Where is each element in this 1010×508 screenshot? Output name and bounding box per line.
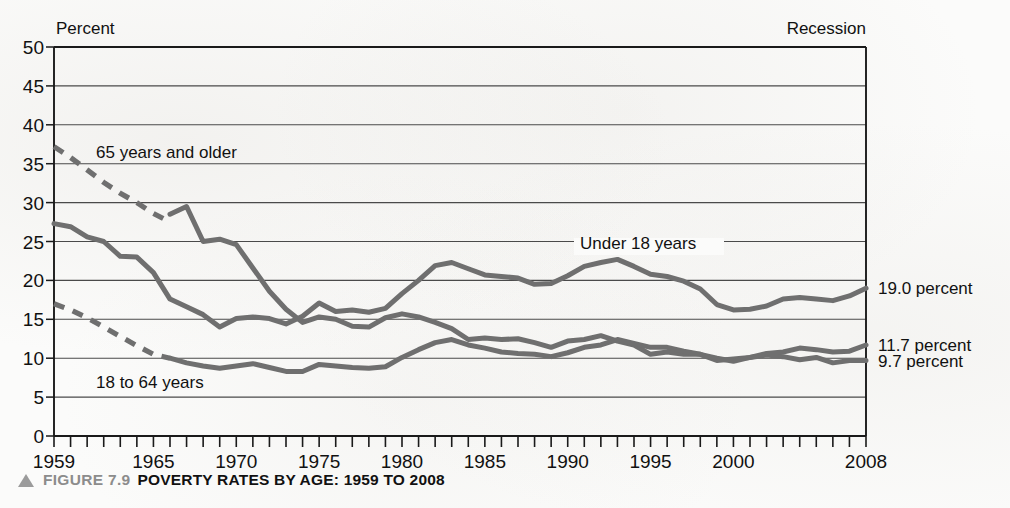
x-tick-label-2000: 2000	[712, 451, 754, 470]
series-1-line	[54, 224, 866, 327]
y-tick-label-40: 40	[23, 115, 44, 136]
figure-title-label: POVERTY RATES BY AGE: 1959 TO 2008	[137, 471, 444, 489]
series-label-18-to-64-years: 18 to 64 years	[96, 373, 204, 392]
figure-caption: FIGURE 7.9 POVERTY RATES BY AGE: 1959 TO…	[18, 471, 445, 489]
y-tick-label-50: 50	[23, 37, 44, 58]
end-value-label-1: 19.0 percent	[878, 279, 973, 298]
series-2-estimated-dashed-segment	[54, 304, 170, 358]
x-tick-label-1970: 1970	[215, 451, 257, 470]
y-tick-label-20: 20	[23, 270, 44, 291]
x-axis-ticks	[54, 436, 866, 447]
end-value-label-2: 11.7 percent	[878, 336, 972, 355]
y-tick-label-45: 45	[23, 76, 44, 97]
series-label-65-years-and-older: 65 years and older	[96, 143, 237, 162]
x-tick-label-2008: 2008	[845, 451, 887, 470]
recession-note-label: Recession	[787, 19, 866, 38]
x-tick-label-1990: 1990	[547, 451, 589, 470]
x-tick-label-1959: 1959	[33, 451, 75, 470]
figure-page: 05101520253035404550 1959196519701975198…	[0, 0, 1010, 508]
x-tick-label-1975: 1975	[298, 451, 340, 470]
series-inline-labels: 65 years and older18 to 64 yearsUnder 18…	[96, 143, 696, 392]
y-tick-label-30: 30	[23, 193, 44, 214]
x-axis-tick-labels: 1959196519701975198019851990199520002008	[33, 451, 887, 470]
figure-number-label: FIGURE 7.9	[43, 471, 130, 489]
series-0-line	[170, 206, 866, 362]
poverty-rates-line-chart: 05101520253035404550 1959196519701975198…	[0, 0, 1010, 470]
y-tick-label-5: 5	[33, 387, 44, 408]
y-tick-label-10: 10	[23, 348, 44, 369]
data-series-group	[54, 147, 866, 372]
x-tick-label-1980: 1980	[381, 451, 423, 470]
y-axis-unit-label: Percent	[56, 19, 115, 38]
x-tick-label-1985: 1985	[464, 451, 506, 470]
triangle-up-icon	[18, 474, 34, 487]
y-axis-tick-labels: 05101520253035404550	[23, 37, 54, 447]
end-value-labels: 9.7 percent19.0 percent11.7 percent	[878, 279, 973, 370]
x-tick-label-1995: 1995	[629, 451, 671, 470]
y-tick-label-0: 0	[33, 426, 44, 447]
series-label-under-18-years: Under 18 years	[580, 234, 696, 253]
y-tick-label-25: 25	[23, 232, 44, 253]
series-2-line	[170, 340, 866, 372]
y-tick-label-35: 35	[23, 154, 44, 175]
y-tick-label-15: 15	[23, 309, 44, 330]
x-tick-label-1965: 1965	[132, 451, 174, 470]
